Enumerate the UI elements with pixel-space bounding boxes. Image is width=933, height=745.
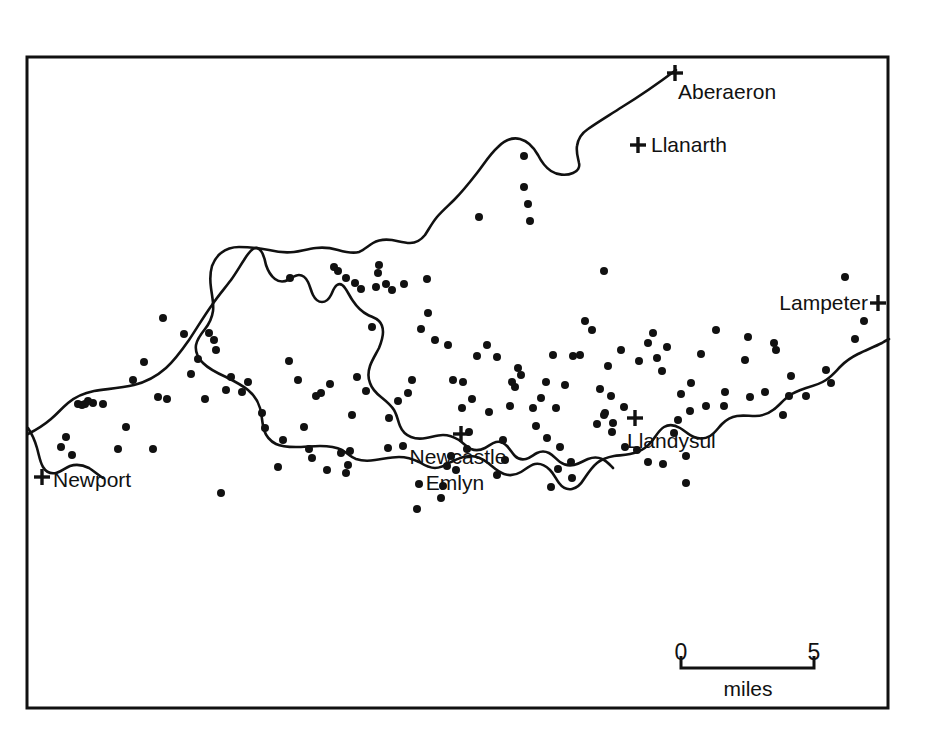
distribution-dot [423, 275, 431, 283]
distribution-dot [620, 403, 628, 411]
distribution-dot [508, 378, 516, 386]
distribution-dot [741, 356, 749, 364]
distribution-dot [346, 447, 354, 455]
distribution-dot [802, 392, 810, 400]
distribution-dot [344, 461, 352, 469]
distribution-dot [227, 373, 235, 381]
distribution-dot [860, 317, 868, 325]
distribution-dot [663, 343, 671, 351]
distribution-dot [222, 386, 230, 394]
distribution-dot [305, 445, 313, 453]
distribution-dot [827, 379, 835, 387]
distribution-dot [353, 373, 361, 381]
scale-start-label: 0 [675, 639, 688, 665]
distribution-dot [677, 390, 685, 398]
distribution-dot [258, 409, 266, 417]
distribution-dot [294, 376, 302, 384]
distribution-dot [568, 474, 576, 482]
distribution-dot [524, 200, 532, 208]
map-canvas: AberaeronLlanarthLampeterLlandysulNewcas… [0, 0, 933, 745]
distribution-dot [529, 404, 537, 412]
distribution-dot [514, 364, 522, 372]
distribution-dot [569, 352, 577, 360]
distribution-dot [163, 395, 171, 403]
distribution-dot [702, 402, 710, 410]
distribution-dot [114, 445, 122, 453]
distribution-dot [122, 423, 130, 431]
distribution-dot [609, 419, 617, 427]
distribution-dot [342, 469, 350, 477]
distribution-dot [600, 411, 608, 419]
distribution-dot [644, 458, 652, 466]
distribution-dot [761, 388, 769, 396]
distribution-dot [286, 274, 294, 282]
distribution-dot [68, 451, 76, 459]
distribution-dot [187, 370, 195, 378]
distribution-dot [493, 353, 501, 361]
distribution-dot [517, 371, 525, 379]
distribution-dot [217, 489, 225, 497]
distribution-dot [682, 479, 690, 487]
place-label: Llanarth [651, 133, 727, 156]
distribution-dot [593, 420, 601, 428]
distribution-dot [567, 458, 575, 466]
distribution-dot [357, 285, 365, 293]
distribution-dot [659, 460, 667, 468]
distribution-dot [537, 394, 545, 402]
distribution-dot [600, 267, 608, 275]
distribution-dot [326, 380, 334, 388]
distribution-dot [682, 452, 690, 460]
distribution-dot [499, 436, 507, 444]
distribution-dot [348, 411, 356, 419]
distribution-dot [159, 314, 167, 322]
distribution-dot [649, 329, 657, 337]
distribution-dot [744, 333, 752, 341]
distribution-dot [374, 269, 382, 277]
distribution-dot [300, 423, 308, 431]
distribution-dot [404, 389, 412, 397]
distribution-dot [543, 434, 551, 442]
distribution-dot [308, 454, 316, 462]
distribution-dot [274, 463, 282, 471]
distribution-dot [483, 341, 491, 349]
distribution-dot [323, 466, 331, 474]
distribution-dot [342, 274, 350, 282]
distribution-dot [687, 379, 695, 387]
distribution-dot [279, 436, 287, 444]
distribution-dot [99, 400, 107, 408]
distribution-dot [205, 329, 213, 337]
distribution-dot [201, 395, 209, 403]
distribution-dot [129, 376, 137, 384]
distribution-dot [415, 480, 423, 488]
distribution-dot [459, 378, 467, 386]
scale-unit-label: miles [723, 677, 772, 700]
distribution-dot [658, 367, 666, 375]
distribution-dot [444, 341, 452, 349]
place-label: Newport [53, 468, 131, 491]
distribution-dot [549, 351, 557, 359]
distribution-dot [493, 471, 501, 479]
distribution-dot [770, 339, 778, 347]
distribution-dot [697, 350, 705, 358]
distribution-dot [532, 422, 540, 430]
distribution-dot [62, 433, 70, 441]
distribution-dot [547, 483, 555, 491]
distribution-dot [154, 393, 162, 401]
distribution-dot [720, 402, 728, 410]
distribution-dot [385, 414, 393, 422]
distribution-dot [372, 283, 380, 291]
distribution-dot [608, 428, 616, 436]
distribution-dot [413, 505, 421, 513]
distribution-dot [607, 392, 615, 400]
distribution-dot [140, 358, 148, 366]
distribution-dot [473, 352, 481, 360]
distribution-dot [285, 357, 293, 365]
distribution-dot [388, 286, 396, 294]
distribution-dot [721, 388, 729, 396]
distribution-dot [674, 416, 682, 424]
distribution-dot [375, 261, 383, 269]
distribution-dot [506, 402, 514, 410]
distribution-dot [485, 408, 493, 416]
distribution-dot [57, 443, 65, 451]
distribution-dot [653, 354, 661, 362]
